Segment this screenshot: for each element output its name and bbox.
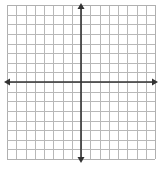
coordinate-grid [0,0,162,170]
coordinate-plane [0,0,162,170]
